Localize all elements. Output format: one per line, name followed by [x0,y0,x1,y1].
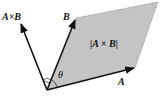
label-cross: A×B [1,11,21,22]
label-a: A [117,76,125,87]
label-b: B [62,11,70,22]
cross-product-diagram: A×B B A |A × B| θ [0,0,162,96]
label-area: |A × B| [90,38,118,49]
label-theta: θ [58,69,63,80]
right-angle-mark-b [43,78,51,80]
